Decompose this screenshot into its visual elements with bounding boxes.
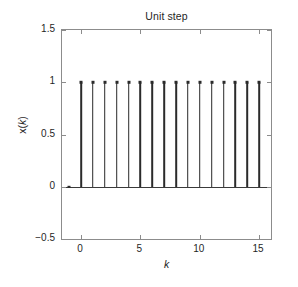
stem-marker bbox=[198, 81, 201, 83]
stem-marker bbox=[222, 81, 225, 83]
stem-marker bbox=[80, 81, 83, 83]
stem-line bbox=[187, 82, 189, 187]
stem-line bbox=[175, 82, 177, 187]
x-axis-tick bbox=[200, 30, 201, 34]
stem-line bbox=[104, 82, 106, 187]
stem-line bbox=[128, 82, 130, 187]
y-axis-tick bbox=[267, 30, 271, 31]
stem-marker bbox=[234, 81, 237, 83]
stem-marker bbox=[210, 81, 213, 83]
stem-marker bbox=[258, 81, 261, 83]
x-axis-tick bbox=[200, 235, 201, 239]
x-axis-label: k bbox=[61, 258, 272, 270]
x-axis-tick bbox=[81, 30, 82, 34]
y-axis-tick bbox=[62, 82, 66, 83]
stem-line bbox=[246, 82, 248, 187]
stem-line bbox=[80, 82, 82, 187]
stem-marker bbox=[115, 81, 118, 83]
stem-line bbox=[140, 82, 142, 187]
stem-line bbox=[199, 82, 201, 187]
x-tick-label: 0 bbox=[60, 243, 100, 255]
x-axis-tick bbox=[259, 30, 260, 34]
stem-line bbox=[223, 82, 225, 187]
y-axis-tick bbox=[267, 135, 271, 136]
baseline bbox=[62, 187, 271, 188]
x-tick-label: 10 bbox=[179, 243, 219, 255]
y-axis-label: x(k) bbox=[16, 95, 28, 155]
y-axis-tick bbox=[267, 187, 271, 188]
stem-marker bbox=[175, 81, 178, 83]
y-axis-tick bbox=[62, 187, 66, 188]
y-axis-label-variable: k bbox=[16, 120, 28, 125]
chart-title: Unit step bbox=[61, 10, 272, 23]
stem-line bbox=[116, 82, 118, 187]
x-axis-tick bbox=[140, 30, 141, 34]
stem-marker bbox=[163, 81, 166, 83]
x-axis-tick bbox=[259, 235, 260, 239]
stem-marker bbox=[91, 81, 94, 83]
stem-line bbox=[92, 82, 94, 187]
y-axis-tick bbox=[62, 30, 66, 31]
y-tick-label: 0 bbox=[9, 180, 55, 192]
y-tick-label: 1 bbox=[9, 75, 55, 87]
y-tick-label: 1.5 bbox=[9, 23, 55, 35]
stem-line bbox=[163, 82, 165, 187]
stem-line bbox=[211, 82, 213, 187]
stem-marker bbox=[151, 81, 154, 83]
y-axis-label-suffix: ) bbox=[16, 116, 28, 120]
x-tick-label: 15 bbox=[238, 243, 278, 255]
y-axis-tick bbox=[62, 135, 66, 136]
figure-container: Unit step 051015−0.500.511.5 k x(k) bbox=[0, 0, 298, 287]
stem-line bbox=[258, 82, 260, 187]
plot-data-region bbox=[62, 30, 271, 239]
stem-marker bbox=[68, 186, 71, 188]
x-tick-label: 5 bbox=[119, 243, 159, 255]
stem-line bbox=[151, 82, 153, 187]
y-axis-tick bbox=[267, 82, 271, 83]
y-axis-label-prefix: x( bbox=[16, 125, 28, 134]
stem-marker bbox=[103, 81, 106, 83]
x-axis-tick bbox=[140, 235, 141, 239]
plot-axes-box bbox=[61, 29, 272, 240]
stem-marker bbox=[127, 81, 130, 83]
stem-marker bbox=[186, 81, 189, 83]
y-tick-label: −0.5 bbox=[9, 232, 55, 244]
stem-marker bbox=[139, 81, 142, 83]
stem-marker bbox=[246, 81, 249, 83]
x-axis-tick bbox=[81, 235, 82, 239]
stem-line bbox=[235, 82, 237, 187]
